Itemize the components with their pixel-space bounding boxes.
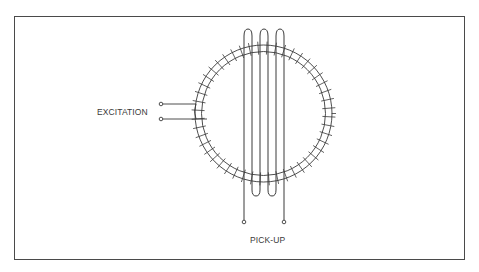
- core-inner-ring: [202, 52, 326, 176]
- toroid-diagram: [0, 0, 479, 272]
- pickup-terminal-left: [242, 220, 246, 224]
- winding-turn: [258, 42, 259, 55]
- winding-turn: [266, 42, 267, 55]
- winding-turn: [193, 101, 206, 103]
- pickup-terminal-right: [282, 220, 286, 224]
- pickup-label: PICK-UP: [250, 235, 285, 245]
- winding-turn: [321, 98, 334, 101]
- excitation-terminal-bottom: [159, 117, 163, 121]
- winding-turn: [248, 43, 251, 56]
- pickup-coil: [244, 29, 284, 220]
- excitation-terminal-top: [159, 102, 163, 106]
- winding-turn: [322, 124, 335, 126]
- excitation-label: EXCITATION: [97, 107, 148, 117]
- core-outer-ring: [195, 45, 332, 182]
- winding-turn: [193, 126, 206, 129]
- excitation-leads: [163, 104, 207, 119]
- winding-turn: [192, 110, 205, 111]
- winding-turn: [322, 116, 335, 117]
- winding-turn: [322, 108, 335, 109]
